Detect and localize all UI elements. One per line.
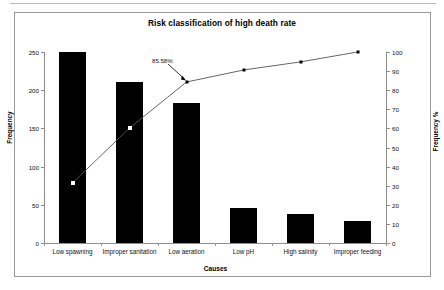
right-tick-mark xyxy=(387,90,390,91)
left-tick-label: 0 xyxy=(13,240,39,247)
right-tick-mark xyxy=(387,205,390,206)
x-tick-mark xyxy=(215,243,216,246)
x-tick-mark xyxy=(386,243,387,246)
line-marker xyxy=(185,80,188,83)
left-axis-tick-labels: 050100150200250 xyxy=(10,0,39,290)
right-tick-mark xyxy=(387,224,390,225)
left-tick-label: 200 xyxy=(13,87,39,94)
line-marker xyxy=(128,127,131,130)
right-tick-label: 70 xyxy=(392,106,414,113)
right-tick-label: 10 xyxy=(392,220,414,227)
x-category-label: Low aeration xyxy=(168,248,204,255)
right-tick-label: 20 xyxy=(392,201,414,208)
right-tick-label: 0 xyxy=(392,240,414,247)
plot-area xyxy=(44,52,386,243)
x-tick-mark xyxy=(272,243,273,246)
x-category-label: Low spawning xyxy=(53,248,93,255)
cumulative-line-markers xyxy=(44,52,386,243)
chart-title: Risk classification of high death rate xyxy=(0,18,444,28)
annotation-label-85-58: 85.58% xyxy=(152,57,173,64)
right-tick-label: 80 xyxy=(392,87,414,94)
right-tick-mark xyxy=(387,71,390,72)
top-divider-rule xyxy=(10,3,436,4)
right-tick-mark xyxy=(387,186,390,187)
line-marker xyxy=(242,68,245,71)
x-tick-mark xyxy=(44,243,45,246)
pareto-chart-figure: Risk classification of high death rate 0… xyxy=(0,0,444,290)
left-tick-label: 150 xyxy=(13,125,39,132)
right-tick-mark xyxy=(387,243,390,244)
right-tick-mark xyxy=(387,128,390,129)
line-marker xyxy=(71,182,74,185)
x-tick-mark xyxy=(101,243,102,246)
right-tick-label: 60 xyxy=(392,125,414,132)
x-category-label: Improper sanitation xyxy=(103,248,157,255)
x-tick-mark xyxy=(329,243,330,246)
right-tick-label: 50 xyxy=(392,144,414,151)
right-tick-mark xyxy=(387,109,390,110)
left-tick-label: 50 xyxy=(13,201,39,208)
right-tick-label: 90 xyxy=(392,68,414,75)
right-tick-label: 40 xyxy=(392,163,414,170)
right-tick-label: 100 xyxy=(392,49,414,56)
left-tick-label: 100 xyxy=(13,163,39,170)
x-axis-title: Causes xyxy=(44,265,387,272)
right-axis-tick-labels: 0102030405060708090100 xyxy=(392,0,416,290)
x-category-label: Low pH xyxy=(233,248,254,255)
line-marker xyxy=(299,60,302,63)
x-tick-mark xyxy=(158,243,159,246)
right-tick-mark xyxy=(387,167,390,168)
line-marker xyxy=(356,51,359,54)
right-tick-mark xyxy=(387,52,390,53)
x-category-label: Improper feeding xyxy=(334,248,382,255)
x-category-label: High salinity xyxy=(284,248,318,255)
right-tick-mark xyxy=(387,148,390,149)
left-tick-label: 250 xyxy=(13,49,39,56)
left-axis-title: Frequency xyxy=(6,98,13,158)
right-axis-title: Frequency % xyxy=(432,97,439,167)
right-tick-label: 30 xyxy=(392,182,414,189)
